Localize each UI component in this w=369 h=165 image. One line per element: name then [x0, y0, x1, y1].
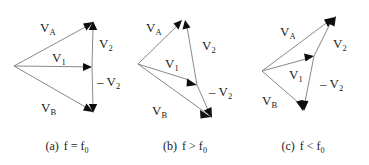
label-vb-a: VB: [41, 100, 56, 117]
label-va-c: VA: [280, 24, 296, 41]
vector-vb-a: [14, 66, 93, 112]
vector-v1-shaft-a: [14, 66, 84, 67]
vector-v2-b: [183, 20, 198, 85]
label-v1-b: V1: [165, 56, 179, 73]
panel-c: VA VB V1 V2 – V2 (c)f < f0: [262, 16, 347, 155]
panel-a: VA VB V1 V2 – V2 (a)f = f0: [14, 20, 120, 155]
label-neg-v2-a: – V2: [96, 74, 120, 91]
vector-v1-shaft-b: [138, 64, 189, 80]
vector-v2-a: [89, 21, 97, 67]
label-v2-a: V2: [99, 36, 113, 53]
vector-neg-v2-shaft-b: [197, 85, 208, 110]
label-vb-b: VB: [152, 103, 167, 120]
panel-b: VA VB V1 V2 – V2 (b)f > f0: [138, 20, 232, 155]
label-v2-b: V2: [202, 38, 216, 55]
label-va-b: VA: [146, 20, 162, 37]
caption-c: (c)f < f0: [281, 139, 324, 155]
vector-neg-v2-shaft-a: [92, 67, 93, 106]
label-va-a: VA: [40, 20, 56, 37]
vector-v1-shaft-c: [262, 59, 306, 71]
vector-v1-arrowhead-a: [83, 63, 92, 71]
vector-va-c: [262, 17, 335, 71]
vector-neg-v2-shaft-c: [305, 56, 314, 102]
label-neg-v2-b: – V2: [208, 84, 232, 101]
vector-diagram-figure: VA VB V1 V2 – V2 (a)f = f0: [0, 0, 369, 165]
caption-b: (b)f > f0: [163, 139, 207, 155]
vector-v2-shaft-c: [314, 24, 330, 56]
caption-a: (a)f = f0: [45, 139, 88, 155]
vector-vb-shaft-b: [138, 64, 206, 113]
label-vb-c: VB: [262, 93, 277, 110]
vector-v2-shaft-b: [187, 27, 197, 85]
label-v2-c: V2: [333, 36, 347, 53]
label-neg-v2-c: – V2: [319, 76, 343, 93]
vector-v2-arrowhead-b: [183, 20, 191, 30]
label-v1-c: V1: [289, 67, 303, 84]
vector-v1-c: [262, 54, 314, 72]
vector-v2-shaft-a: [92, 27, 93, 67]
vector-v1-arrowhead-b: [187, 79, 198, 87]
vector-neg-v2-a: [89, 67, 97, 113]
vector-vb-shaft-a: [14, 66, 89, 109]
vector-v1-arrowhead-c: [304, 54, 314, 62]
label-v1-a: V1: [52, 50, 66, 67]
